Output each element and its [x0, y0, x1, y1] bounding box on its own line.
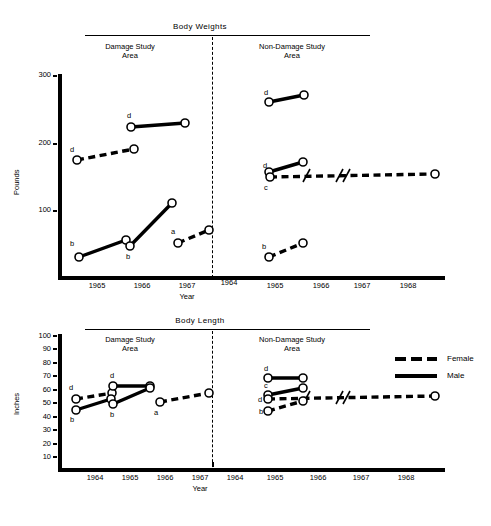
point-label-b: b	[110, 410, 114, 419]
plot-area-top: d d b b a d	[0, 0, 491, 310]
point-label-d: d	[258, 395, 262, 404]
series-top-left-d-female: d	[70, 145, 138, 164]
series-top-left-b-male: b b	[70, 199, 176, 261]
point-label-c: c	[264, 183, 268, 192]
legend-label-male: Male	[447, 371, 464, 380]
panel-body-weights: Body Weights Damage Study Area Non-Damag…	[0, 0, 491, 310]
point-label-d: d	[127, 111, 131, 120]
point-label-a: a	[171, 227, 176, 236]
panel-body-length: Body Length Damage Study Area Non-Damage…	[0, 310, 491, 526]
point-label-d: d	[110, 371, 114, 380]
series-top-right-c-female: c	[264, 169, 439, 192]
series-top-left-a-female: a	[171, 226, 213, 247]
chart-legend: Female Male	[395, 352, 485, 383]
point-label-d: d	[70, 145, 74, 154]
plot-area-bottom: d d b b a d	[0, 310, 491, 526]
point-label-d: d	[69, 383, 73, 392]
point-label-b: b	[126, 252, 130, 261]
series-top-right-d-male-upper: d	[264, 88, 308, 106]
series-top-right-b-female: b	[262, 239, 307, 261]
legend-item-female: Female	[395, 352, 485, 366]
series-bottom-left-a-female: a	[154, 389, 213, 417]
point-label-b: b	[70, 239, 74, 248]
point-label-b: b	[259, 407, 263, 416]
point-label-d: d	[263, 161, 267, 170]
legend-swatch-male-solid-line	[395, 374, 437, 378]
point-label-b: b	[262, 242, 266, 251]
series-top-left-d-male: d	[127, 111, 189, 131]
legend-label-female: Female	[447, 354, 474, 363]
point-label-b: b	[70, 415, 74, 424]
point-label-d: d	[264, 364, 268, 373]
point-label-c: c	[264, 381, 268, 390]
legend-swatch-female-dashed-line	[395, 357, 437, 361]
point-label-d: d	[264, 88, 268, 97]
point-label-a: a	[154, 408, 159, 417]
legend-item-male: Male	[395, 369, 485, 383]
series-bottom-right-d-male-upper: d	[264, 364, 307, 382]
